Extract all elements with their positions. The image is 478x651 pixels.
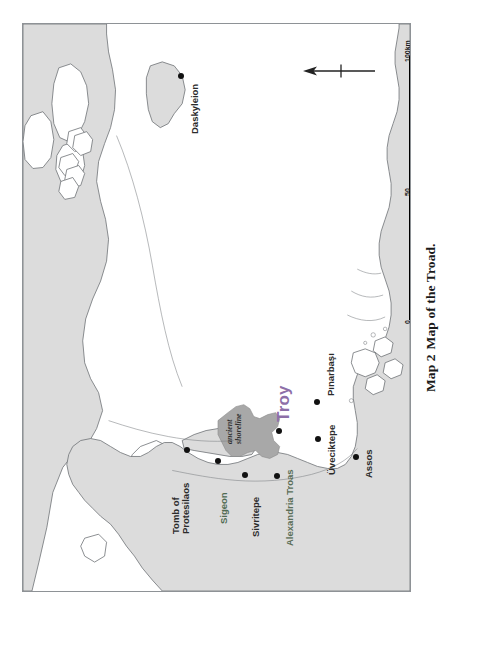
scale-seg-8 xyxy=(410,286,411,302)
figure-caption: Map 2Map of the Troad. xyxy=(423,182,445,392)
sea-inlet-adramyttion xyxy=(351,349,379,377)
scale-label-max: 100km xyxy=(404,40,411,62)
scale-seg-1 xyxy=(410,57,411,73)
dot-sivritepe xyxy=(242,472,248,478)
figure-caption-text: Map of the Troad. xyxy=(423,243,438,349)
dot-pinarbasi xyxy=(314,399,320,405)
dot-troy xyxy=(276,428,282,434)
map-geometry: .land { fill:#dcdcdc; stroke:#6e7276; st… xyxy=(23,24,410,591)
dot-daskyleion xyxy=(178,73,184,79)
scale-label-zero: 0 xyxy=(404,320,411,324)
map-surface: .land { fill:#dcdcdc; stroke:#6e7276; st… xyxy=(23,24,410,591)
dot-tomb-of-protesilaos xyxy=(184,447,190,453)
dot-sigeon xyxy=(215,458,221,464)
scale-seg-2 xyxy=(410,90,411,106)
figure-caption-number: Map 2 xyxy=(423,354,438,392)
dot-assos xyxy=(353,454,359,460)
scale-seg-4 xyxy=(410,155,411,171)
map-frame: .land { fill:#dcdcdc; stroke:#6e7276; st… xyxy=(22,23,411,592)
scale-seg-6 xyxy=(410,221,411,237)
figure-page: .land { fill:#dcdcdc; stroke:#6e7276; st… xyxy=(0,0,478,651)
scale-seg-5 xyxy=(410,188,411,204)
scale-label-mid: 50 xyxy=(404,188,411,196)
scale-seg-7 xyxy=(410,254,411,270)
dot-alexandria-troas xyxy=(274,473,280,479)
north-arrow-icon xyxy=(301,62,377,80)
dot-uveciktepe xyxy=(315,436,321,442)
scale-seg-3 xyxy=(410,123,411,139)
